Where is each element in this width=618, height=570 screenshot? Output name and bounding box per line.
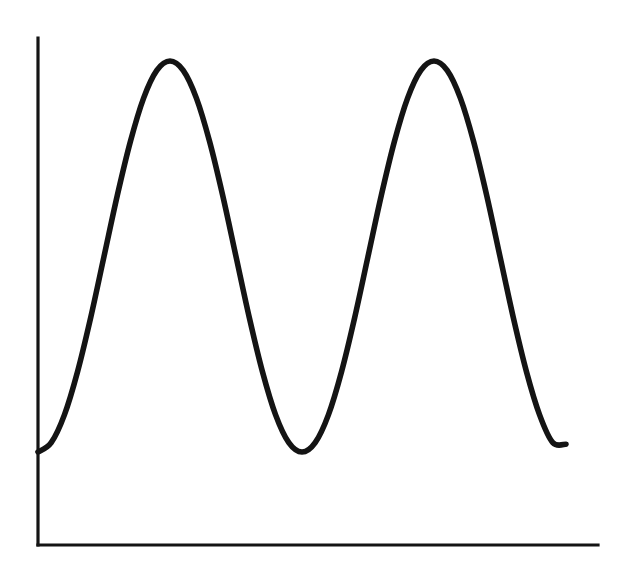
line-chart [0, 0, 618, 570]
figure-canvas: Smooth sinusoidal wave with two full cre… [0, 0, 618, 570]
plot-background [0, 0, 618, 570]
